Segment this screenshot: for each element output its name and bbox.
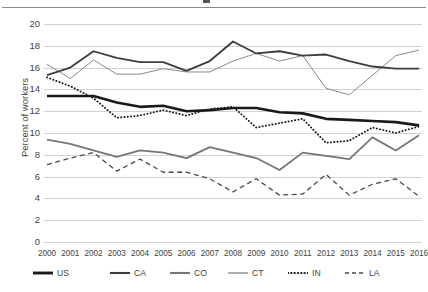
x-tick-label: 2009 [247, 249, 265, 258]
series-lines [44, 24, 422, 242]
x-tick-label: 2003 [108, 249, 126, 258]
y-tick-label: 16 [2, 63, 40, 73]
y-tick-label: 4 [2, 193, 40, 203]
x-tick-label: 2012 [317, 249, 335, 258]
y-tick-label: 0 [2, 237, 40, 247]
legend-item-co[interactable]: CO [170, 268, 207, 278]
series-line-us [47, 96, 419, 125]
legend-label-ct: CT [252, 269, 263, 278]
y-tick-label: 8 [2, 150, 40, 160]
y-tick-label: 18 [2, 41, 40, 51]
x-tick-label: 2002 [84, 249, 102, 258]
x-tick-label: 2013 [340, 249, 358, 258]
x-tick-label: 2010 [270, 249, 288, 258]
series-line-co [47, 135, 419, 170]
plot-area [44, 24, 422, 242]
legend-item-ca[interactable]: CA [110, 268, 146, 278]
legend-label-la: LA [369, 269, 380, 278]
x-tick-label: 2014 [363, 249, 381, 258]
y-tick-label: 10 [2, 128, 40, 138]
legend-swatch-co [170, 268, 190, 278]
x-tick-label: 2005 [154, 249, 172, 258]
x-tick-label: 2004 [131, 249, 149, 258]
legend-swatch-la [345, 268, 365, 278]
y-tick-label: 14 [2, 84, 40, 94]
series-line-ct [47, 50, 419, 95]
series-line-la [47, 153, 419, 197]
legend-label-in: IN [312, 269, 321, 278]
x-tick-label: 2016 [410, 249, 428, 258]
legend-item-ct[interactable]: CT [228, 268, 263, 278]
x-axis-tick-labels: 2000200120022003200420052006200720082009… [44, 249, 422, 261]
header-rule [2, 7, 426, 8]
x-tick-label: 2008 [224, 249, 242, 258]
legend-swatch-ct [228, 268, 248, 278]
chart-legend: USCACOCTINLA [0, 268, 428, 286]
y-tick-label: 12 [2, 106, 40, 116]
series-line-ca [47, 41, 419, 75]
y-tick-label: 2 [2, 215, 40, 225]
gridline [44, 242, 422, 243]
legend-label-co: CO [194, 269, 207, 278]
x-tick-label: 2001 [61, 249, 79, 258]
y-tick-label: 6 [2, 172, 40, 182]
legend-item-us[interactable]: US [33, 268, 69, 278]
y-tick-label: 20 [2, 19, 40, 29]
legend-item-in[interactable]: IN [288, 268, 321, 278]
legend-swatch-ca [110, 268, 130, 278]
x-tick-label: 2011 [294, 249, 312, 258]
x-tick-label: 2007 [201, 249, 219, 258]
cropped-title-fragment [203, 0, 210, 3]
y-axis-tick-labels: 02468101214161820 [0, 24, 40, 242]
legend-label-ca: CA [134, 269, 146, 278]
legend-label-us: US [57, 269, 69, 278]
legend-swatch-us [33, 268, 53, 278]
line-chart: Percent of workers 02468101214161820 200… [0, 0, 428, 292]
x-tick-label: 2000 [38, 249, 56, 258]
x-tick-label: 2006 [177, 249, 195, 258]
legend-item-la[interactable]: LA [345, 268, 380, 278]
series-line-in [47, 77, 419, 142]
legend-swatch-in [288, 268, 308, 278]
x-tick-label: 2015 [387, 249, 405, 258]
